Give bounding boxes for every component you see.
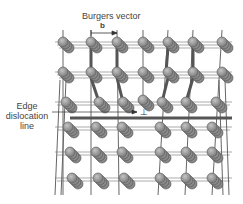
edge-label-line-1: Edge	[2, 101, 52, 111]
dislocation-symbol: ⊥	[140, 107, 148, 117]
edge-dislocation-label: Edge dislocation line	[2, 101, 52, 131]
edge-label-line-2: dislocation	[2, 111, 52, 121]
burgers-vector-label: Burgers vector	[82, 11, 141, 21]
burgers-vector-symbol: b	[100, 21, 105, 31]
edge-label-line-3: line	[2, 121, 52, 131]
